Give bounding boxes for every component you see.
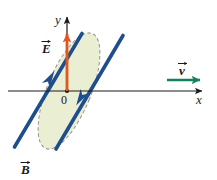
origin-label: 0 [61, 93, 67, 107]
v-vector-label-group: v [178, 62, 187, 78]
diagram-canvas: x y 0 E v B [0, 0, 217, 180]
v-vector-label: v [179, 63, 185, 78]
figure-root: x y 0 E v B [0, 0, 217, 180]
b-vector-label: B [20, 162, 30, 177]
y-axis-label: y [53, 12, 61, 27]
coordinate-axes [8, 17, 202, 93]
v-vector-overbar-arrowhead-icon [184, 62, 187, 66]
x-axis-label: x [195, 92, 202, 107]
e-vector-label-group: E [41, 40, 51, 56]
b-vector-label-group: B [20, 161, 30, 177]
e-vector-label: E [41, 41, 51, 56]
